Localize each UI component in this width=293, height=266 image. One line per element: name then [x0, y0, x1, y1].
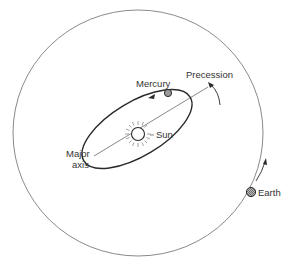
mercury-label: Mercury: [136, 78, 171, 89]
precession-arrow-icon: [211, 85, 220, 105]
sun-label: Sun: [156, 129, 173, 140]
sun: [132, 128, 145, 141]
precession-label: Precession: [186, 69, 233, 80]
major-axis-label-line1: Major: [66, 148, 90, 159]
mercury-precession-diagram: Mercury Precession Sun Major axis Earth: [0, 0, 293, 266]
earth-label: Earth: [258, 187, 281, 198]
major-axis-label-line2: axis: [72, 159, 89, 170]
earth-motion-arrowhead-icon: [263, 158, 267, 165]
mercury: [164, 89, 171, 96]
earth: [246, 187, 255, 196]
earth-motion-arrow-icon: [256, 162, 265, 181]
mercury-direction-arrow-icon: [148, 94, 155, 99]
